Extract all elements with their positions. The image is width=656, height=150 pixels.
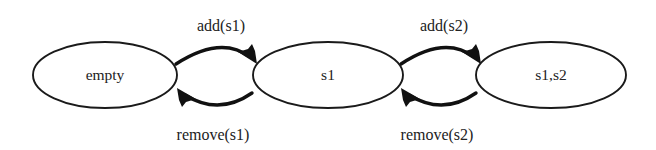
transition-add-s1-arrowhead [238,44,257,64]
transition-remove-s1-arrowhead [177,88,196,107]
transition-add-s2-label: add(s2) [420,17,468,35]
transition-add-s2-arrowhead [462,44,481,64]
state-s1s2-label: s1,s2 [535,66,566,83]
transition-add-s2-curve [401,48,474,64]
state-node-s1s2[interactable]: s1,s2 [476,42,626,108]
transition-add-s2[interactable]: add(s2) [401,17,481,64]
transition-add-s1-label: add(s1) [197,17,245,35]
transition-remove-s2[interactable]: remove(s2) [401,88,476,144]
transition-remove-s2-arrowhead [401,88,420,107]
state-diagram-canvas: add(s1) remove(s1) add(s2) remove(s2) em… [0,0,656,150]
state-node-s1[interactable]: s1 [253,42,403,108]
state-node-empty[interactable]: empty [33,42,177,108]
transition-remove-s2-label: remove(s2) [401,126,474,144]
transition-remove-s1[interactable]: remove(s1) [177,88,252,144]
transition-add-s1[interactable]: add(s1) [176,17,257,64]
state-s1-label: s1 [321,66,335,83]
state-diagram: add(s1) remove(s1) add(s2) remove(s2) em… [0,0,656,150]
transition-add-s1-curve [176,48,250,64]
state-empty-label: empty [86,66,125,83]
transition-remove-s1-label: remove(s1) [177,126,250,144]
